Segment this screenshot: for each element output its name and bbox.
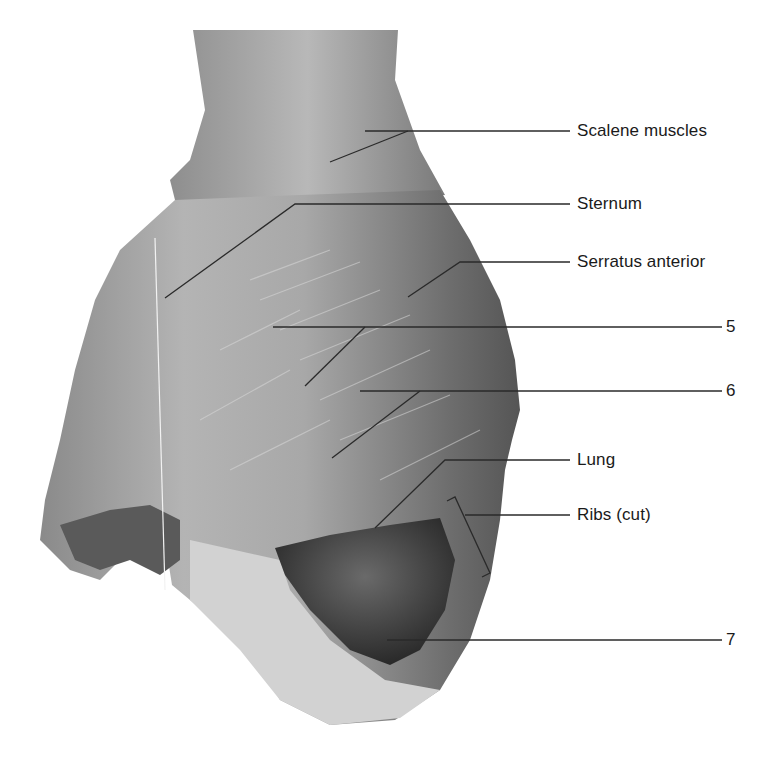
label-rib-7: 7 — [726, 630, 736, 650]
label-rib-5: 5 — [726, 317, 736, 337]
label-serratus-anterior: Serratus anterior — [577, 252, 705, 272]
thorax-specimen-image — [0, 0, 782, 757]
label-lung: Lung — [577, 450, 615, 470]
label-sternum: Sternum — [577, 194, 642, 214]
neck-region — [170, 30, 445, 210]
anatomy-figure: Scalene muscles Sternum Serratus anterio… — [0, 0, 782, 757]
label-rib-6: 6 — [726, 381, 736, 401]
label-ribs-cut: Ribs (cut) — [577, 505, 651, 525]
label-scalene-muscles: Scalene muscles — [577, 121, 707, 141]
